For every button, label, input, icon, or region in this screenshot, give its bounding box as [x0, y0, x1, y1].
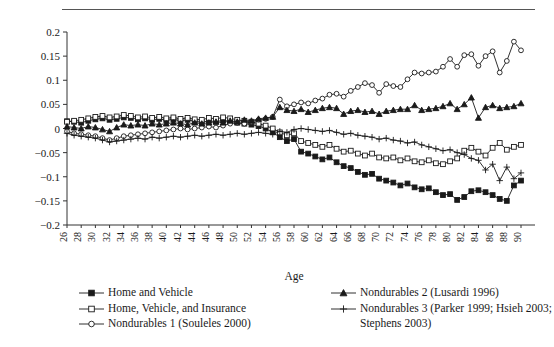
data-point-marker — [86, 116, 91, 121]
data-point-marker — [468, 95, 474, 100]
data-point-marker — [384, 178, 389, 183]
data-point-marker — [270, 126, 275, 131]
x-axis-tick-label: 60 — [299, 232, 310, 242]
data-point-marker — [170, 133, 176, 139]
legend-label: Nondurables 2 (Lusardi 1996) — [360, 285, 499, 301]
data-point-marker — [497, 141, 502, 146]
data-point-marker — [362, 133, 368, 139]
x-axis-tick-label: 36 — [129, 232, 140, 242]
x-axis-tick-label: 70 — [370, 232, 381, 242]
data-point-marker — [85, 124, 91, 129]
data-point-marker — [334, 146, 339, 151]
legend-column-left: Home and VehicleHome, Vehicle, and Insur… — [78, 285, 251, 332]
data-point-marker — [411, 139, 417, 145]
x-axis-tick-label: 74 — [399, 232, 410, 242]
data-point-marker — [412, 70, 417, 75]
data-point-marker — [376, 136, 382, 142]
data-point-marker — [177, 134, 183, 140]
data-point-marker — [397, 138, 403, 144]
data-point-marker — [255, 129, 261, 135]
data-point-marker — [142, 136, 148, 142]
data-point-marker — [455, 198, 460, 203]
data-point-marker — [340, 305, 347, 312]
data-point-marker — [391, 180, 396, 185]
data-point-marker — [419, 187, 424, 192]
data-point-marker — [412, 102, 418, 107]
x-axis-tick-label: 26 — [58, 232, 69, 242]
data-point-marker — [497, 70, 502, 75]
x-axis-tick-label: 88 — [498, 232, 509, 242]
y-axis-tick-label: −0.15 — [35, 195, 61, 207]
data-point-marker — [448, 57, 453, 62]
data-point-marker — [512, 39, 517, 44]
data-point-marker — [234, 130, 240, 136]
data-point-marker — [319, 128, 325, 134]
data-point-marker — [454, 149, 460, 155]
data-point-marker — [263, 123, 268, 128]
data-point-marker — [163, 134, 169, 140]
data-point-marker — [384, 82, 389, 87]
data-point-marker — [512, 144, 517, 149]
data-point-marker — [277, 97, 282, 102]
data-point-marker — [178, 126, 183, 131]
x-axis-tick-label: 34 — [115, 232, 126, 242]
legend-marker-open-square — [78, 301, 108, 317]
data-point-marker — [185, 127, 190, 132]
data-point-marker — [157, 129, 162, 134]
data-point-marker — [405, 181, 410, 186]
data-point-marker — [469, 52, 474, 57]
x-axis-tick-label: 82 — [455, 232, 466, 242]
data-point-marker — [440, 147, 446, 153]
data-point-marker — [377, 155, 382, 160]
data-point-marker — [483, 153, 488, 158]
x-axis-tick-label: 72 — [384, 232, 395, 242]
data-point-marker — [285, 139, 290, 144]
data-point-marker — [497, 197, 502, 202]
legend-marker-filled-triangle — [330, 285, 360, 301]
top-rule-divider — [62, 9, 535, 10]
data-point-marker — [220, 132, 226, 138]
data-point-marker — [298, 125, 304, 131]
data-point-marker — [391, 84, 396, 89]
legend-column-right: Nondurables 2 (Lusardi 1996)Nondurables … — [330, 285, 552, 332]
y-axis-tick-label: −0.05 — [35, 147, 61, 159]
x-axis-tick-label: 30 — [86, 232, 97, 242]
data-point-marker — [448, 159, 453, 164]
data-point-marker — [93, 115, 98, 120]
data-point-marker — [192, 126, 197, 131]
data-point-marker — [433, 146, 439, 152]
data-point-marker — [490, 49, 495, 54]
data-point-marker — [341, 164, 346, 169]
data-point-marker — [398, 158, 403, 163]
legend-marker-cell — [78, 301, 108, 317]
data-point-marker — [213, 131, 219, 137]
data-point-marker — [355, 151, 360, 156]
data-point-marker — [305, 126, 311, 132]
x-axis-tick-label: 76 — [413, 232, 424, 242]
x-axis-tick-label: 84 — [469, 232, 480, 242]
legend-marker-open-circle — [78, 316, 108, 332]
legend-marker-plus — [330, 301, 360, 317]
data-point-marker — [433, 190, 438, 195]
data-point-marker — [292, 137, 297, 142]
x-axis-tick-label: 32 — [101, 232, 112, 242]
data-point-marker — [89, 290, 95, 296]
data-point-marker — [412, 159, 417, 164]
data-point-marker — [306, 141, 311, 146]
data-point-marker — [441, 64, 446, 69]
data-point-marker — [398, 85, 403, 90]
data-point-marker — [341, 94, 346, 99]
data-point-marker — [299, 149, 304, 154]
data-point-marker — [248, 130, 254, 136]
x-axis-tick-label: 78 — [427, 232, 438, 242]
data-point-marker — [128, 114, 133, 119]
data-point-marker — [227, 131, 233, 137]
data-point-marker — [157, 115, 162, 120]
data-point-marker — [184, 133, 190, 139]
data-point-marker — [376, 111, 382, 116]
x-axis-tick-label: 62 — [313, 232, 324, 242]
x-axis-tick-label: 52 — [242, 232, 253, 242]
data-point-marker — [355, 85, 360, 90]
data-point-marker — [150, 115, 155, 120]
data-point-marker — [312, 127, 318, 133]
